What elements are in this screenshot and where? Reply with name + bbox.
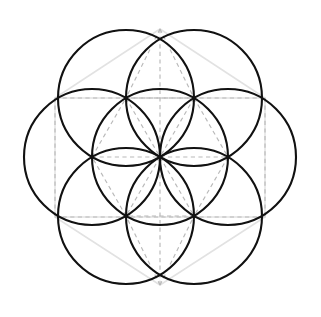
geometry-canvas [0,0,321,317]
seed-of-life-figure: Seed of Life Seven overlapping circles w… [0,0,321,317]
